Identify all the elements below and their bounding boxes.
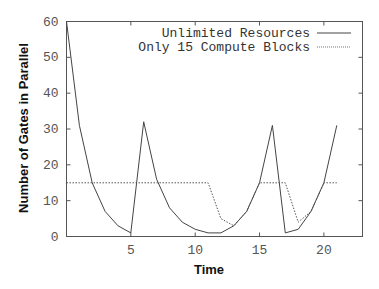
x-tick-label: 10 [187,243,203,258]
y-tick-label: 10 [43,194,59,209]
x-tick-label: 5 [127,243,135,258]
y-axis-title: Number of Gates in Parallel [16,43,31,213]
y-tick-label: 50 [43,50,59,65]
y-tick-label: 0 [51,230,59,245]
legend-label-unlimited: Unlimited Resources [162,26,310,41]
y-tick-label: 30 [43,122,59,137]
y-tick-label: 20 [43,158,59,173]
y-tick-label: 40 [43,86,59,101]
legend-label-15-blocks: Only 15 Compute Blocks [138,40,310,55]
y-tick-label: 60 [43,15,59,30]
x-tick-label: 20 [316,243,332,258]
legend: Unlimited Resources Only 15 Compute Bloc… [138,26,351,55]
x-axis-title: Time [194,262,224,277]
line-chart: 01020304050605101520 Unlimited Resources… [0,0,379,289]
x-tick-label: 15 [252,243,268,258]
series-15-compute-blocks [67,183,337,226]
